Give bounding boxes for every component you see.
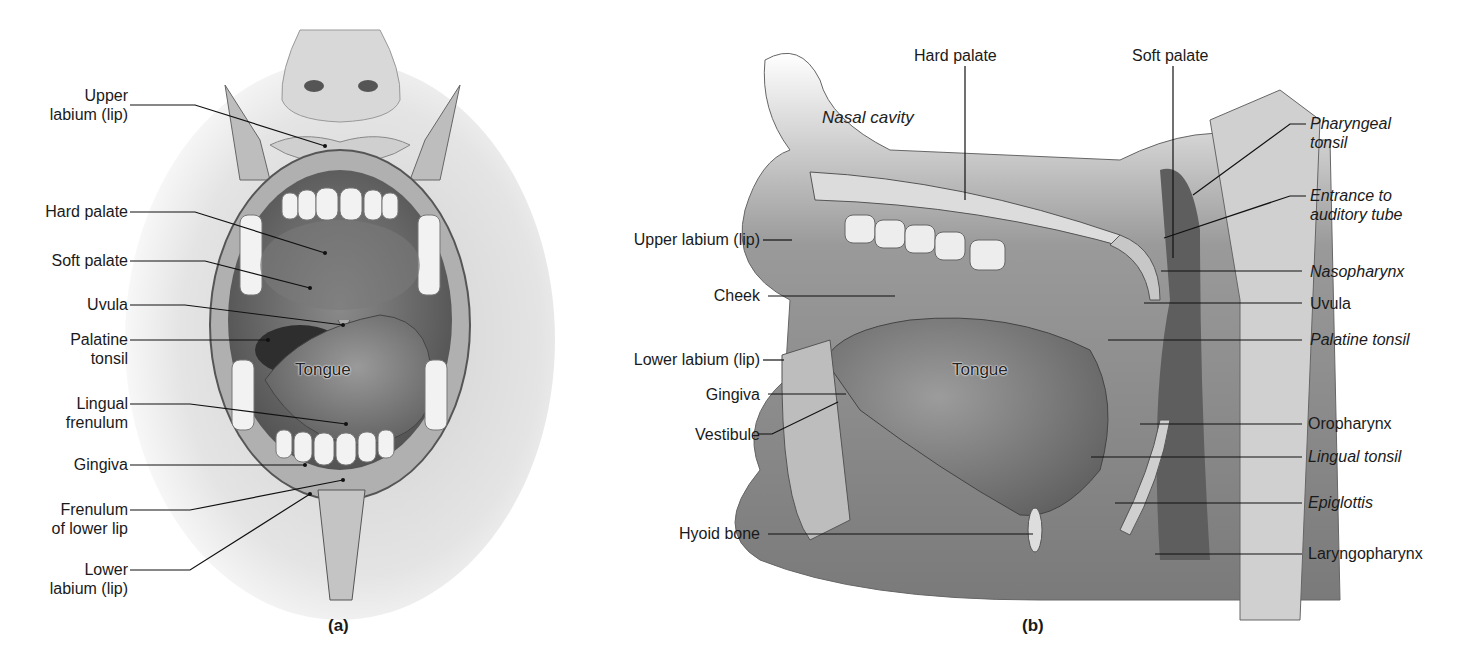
label-upper-labium-b: Upper labium (lip) xyxy=(634,230,760,249)
label-lingual-tonsil: Lingual tonsil xyxy=(1308,447,1401,466)
label-nasal-cavity: Nasal cavity xyxy=(822,108,914,128)
label-epiglottis: Epiglottis xyxy=(1308,493,1373,512)
label-tongue-b: Tongue xyxy=(952,360,1008,380)
label-uvula-b: Uvula xyxy=(1310,294,1351,313)
label-laryngopharynx: Laryngopharynx xyxy=(1308,544,1423,563)
label-uvula: Uvula xyxy=(87,295,128,314)
palate xyxy=(260,220,420,310)
left-nostril xyxy=(304,80,324,92)
label-frenulum-lower-lip: Frenulum of lower lip xyxy=(52,500,128,538)
label-lower-labium: Lower labium (lip) xyxy=(50,560,128,598)
label-soft-palate-b: Soft palate xyxy=(1132,46,1209,65)
right-nostril xyxy=(358,80,378,92)
label-tongue: Tongue xyxy=(295,360,351,380)
label-gingiva: Gingiva xyxy=(74,455,128,474)
caption-b: (b) xyxy=(1022,616,1044,636)
label-palatine-tonsil-b: Palatine tonsil xyxy=(1310,330,1410,349)
label-lower-labium-b: Lower labium (lip) xyxy=(634,350,760,369)
label-hyoid-bone-b: Hyoid bone xyxy=(679,524,760,543)
label-upper-labium: Upper labium (lip) xyxy=(50,86,128,124)
label-hard-palate-b: Hard palate xyxy=(914,46,997,65)
panel-a-oral-cavity-anterior-view: Upper labium (lip) Hard palate Soft pala… xyxy=(0,0,560,657)
label-oropharynx: Oropharynx xyxy=(1308,414,1392,433)
label-cheek-b: Cheek xyxy=(714,286,760,305)
label-lingual-frenulum: Lingual frenulum xyxy=(66,394,128,432)
label-vestibule-b: Vestibule xyxy=(695,425,760,444)
label-pharyngeal-tonsil: Pharyngeal tonsil xyxy=(1310,114,1391,152)
caption-a: (a) xyxy=(328,616,349,636)
label-gingiva-b: Gingiva xyxy=(706,385,760,404)
panel-b-oral-cavity-sagittal-section: Nasal cavity Tongue Hard palate Soft pal… xyxy=(560,0,1465,657)
label-entrance-auditory-tube: Entrance to auditory tube xyxy=(1310,186,1403,224)
hyoid-shape xyxy=(1028,508,1042,552)
label-soft-palate: Soft palate xyxy=(52,251,129,270)
nose-shape xyxy=(282,30,400,122)
label-palatine-tonsil: Palatine tonsil xyxy=(70,330,128,368)
label-hard-palate: Hard palate xyxy=(45,202,128,221)
label-nasopharynx: Nasopharynx xyxy=(1310,262,1404,281)
